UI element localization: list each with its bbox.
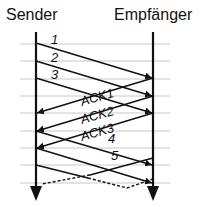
sequence-diagram: 1 2 3 ACK1 ACK2 ACK3 4 5 bbox=[0, 0, 203, 207]
message-6-solid bbox=[36, 165, 88, 178]
sender-timeline bbox=[30, 32, 42, 201]
message-2-label: 2 bbox=[50, 50, 59, 65]
message-3-label: 3 bbox=[51, 67, 59, 82]
receiver-time-arrow-icon bbox=[147, 186, 159, 201]
message-1-label: 1 bbox=[51, 32, 58, 47]
receiver-timeline bbox=[147, 32, 159, 201]
message-4-label: 4 bbox=[108, 131, 115, 146]
sender-time-arrow-icon bbox=[30, 186, 42, 201]
message-5-label: 5 bbox=[111, 148, 119, 163]
